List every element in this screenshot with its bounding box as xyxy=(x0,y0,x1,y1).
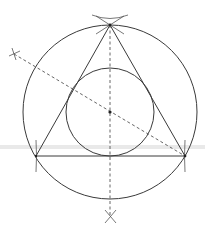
geometry-diagram xyxy=(0,0,205,230)
top-vertex-point xyxy=(109,24,112,27)
center-point xyxy=(108,110,111,113)
bottom-cross-mark xyxy=(105,210,116,223)
bottom-left-vertex-point xyxy=(35,155,37,157)
equilateral-triangle xyxy=(36,25,185,156)
bottom-right-vertex-point xyxy=(184,155,187,158)
